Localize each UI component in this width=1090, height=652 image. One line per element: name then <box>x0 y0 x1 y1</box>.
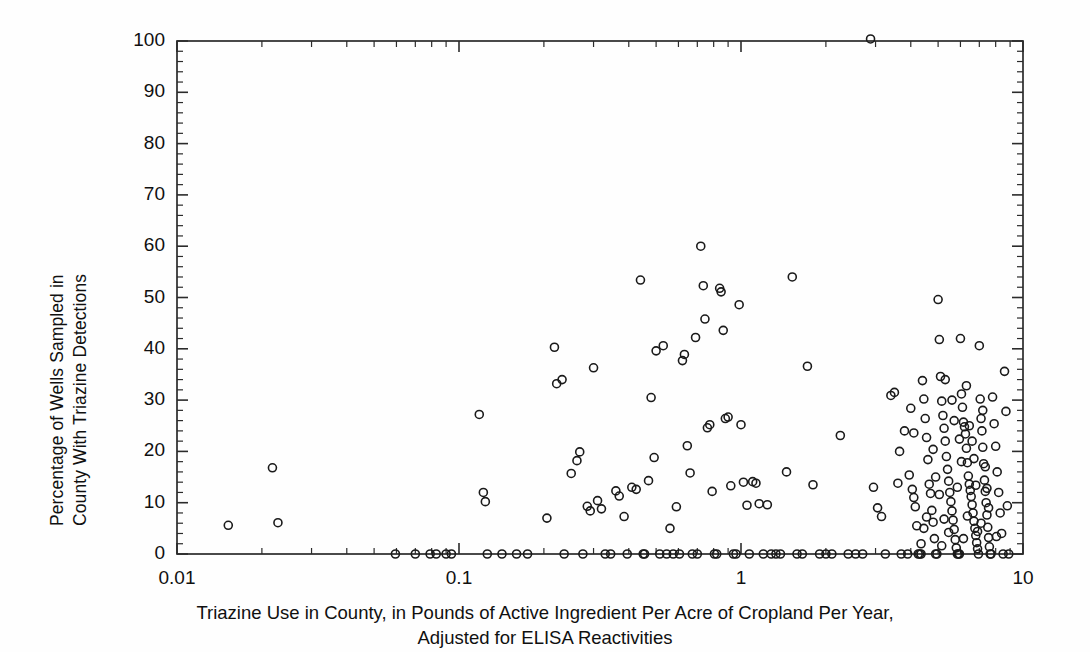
x-tick-label-10: 10 <box>963 567 1083 589</box>
y-tick-label-100: 100 <box>105 29 165 51</box>
axis-ticks <box>177 41 1023 554</box>
x-tick-label-0.01: 0.01 <box>117 567 237 589</box>
plot-frame <box>177 41 1023 554</box>
y-tick-label-80: 80 <box>105 132 165 154</box>
scatter-plot-figure: 0102030405060708090100 0.010.1110 Percen… <box>0 0 1090 652</box>
y-tick-label-20: 20 <box>105 439 165 461</box>
y-tick-label-40: 40 <box>105 337 165 359</box>
x-axis-title: Triazine Use in County, in Pounds of Act… <box>0 600 1090 650</box>
x-tick-label-1: 1 <box>681 567 801 589</box>
x-tick-label-0.1: 0.1 <box>399 567 519 589</box>
y-tick-label-0: 0 <box>105 542 165 564</box>
y-tick-label-70: 70 <box>105 183 165 205</box>
y-axis-title-line2: County With Triazine Detections <box>70 274 91 526</box>
y-tick-label-60: 60 <box>105 234 165 256</box>
y-axis-title-line1: Percentage of Wells Sampled in <box>47 274 68 526</box>
y-tick-label-30: 30 <box>105 388 165 410</box>
data-points <box>224 35 1012 558</box>
x-axis-title-line1: Triazine Use in County, in Pounds of Act… <box>0 600 1090 625</box>
y-tick-label-50: 50 <box>105 286 165 308</box>
x-axis-title-line2: Adjusted for ELISA Reactivities <box>0 625 1090 650</box>
y-tick-label-10: 10 <box>105 491 165 513</box>
y-tick-label-90: 90 <box>105 80 165 102</box>
